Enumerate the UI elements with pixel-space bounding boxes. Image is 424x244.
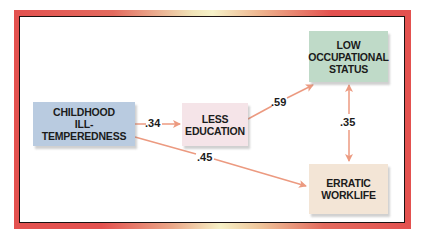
node-low-occupational-status: LOW OCCUPATIONAL STATUS <box>309 31 388 82</box>
coefficient-label: .35 <box>340 116 355 128</box>
coefficient-label: .45 <box>197 151 212 163</box>
node-less-education: LESS EDUCATION <box>182 103 248 146</box>
node-erratic-worklife: ERRATIC WORKLIFE <box>309 164 388 214</box>
coefficient-label: .34 <box>145 117 160 129</box>
coefficient-label: .59 <box>271 96 286 108</box>
node-childhood-ill-temperedness: CHILDHOOD ILL-TEMPEREDNESS <box>33 102 135 146</box>
